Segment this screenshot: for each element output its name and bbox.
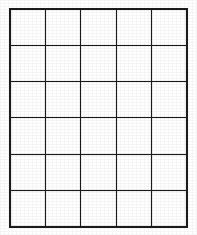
grid-cell-content xyxy=(46,46,80,81)
grid-cell[interactable] xyxy=(151,118,186,154)
grid-cell-content xyxy=(11,155,45,190)
grid-row xyxy=(11,118,187,154)
grid-body xyxy=(11,10,187,227)
grid-cell-content xyxy=(117,191,151,226)
grid-cell-content xyxy=(81,155,115,190)
grid-cell-content xyxy=(152,82,186,117)
grid-cell[interactable] xyxy=(11,46,46,82)
grid-cell-content xyxy=(11,10,45,45)
grid-cell[interactable] xyxy=(151,82,186,118)
grid-cell[interactable] xyxy=(151,190,186,226)
grid-cell[interactable] xyxy=(11,10,46,46)
grid-cell[interactable] xyxy=(11,190,46,226)
grid-row xyxy=(11,10,187,46)
grid-cell[interactable] xyxy=(46,46,81,82)
grid-cell-content xyxy=(11,82,45,117)
grid-row xyxy=(11,46,187,82)
grid-cell-content xyxy=(152,118,186,153)
grid-row xyxy=(11,154,187,190)
grid-cell-content xyxy=(117,82,151,117)
grid-cell[interactable] xyxy=(81,82,116,118)
grid-cell-content xyxy=(81,10,115,45)
grid-cell[interactable] xyxy=(46,10,81,46)
grid-cell-content xyxy=(46,155,80,190)
grid-cell-content xyxy=(117,10,151,45)
grid-cell-content xyxy=(117,118,151,153)
grid-cell[interactable] xyxy=(116,190,151,226)
grid-cell-content xyxy=(117,46,151,81)
grid-cell[interactable] xyxy=(11,154,46,190)
page-canvas xyxy=(0,0,197,235)
grid-cell[interactable] xyxy=(116,10,151,46)
grid-row xyxy=(11,82,187,118)
grid-cell[interactable] xyxy=(46,190,81,226)
grid-cell[interactable] xyxy=(46,118,81,154)
grid-cell-content xyxy=(81,118,115,153)
grid-cell[interactable] xyxy=(116,118,151,154)
grid-cell[interactable] xyxy=(81,46,116,82)
grid-cell-content xyxy=(81,191,115,226)
grid-cell-content xyxy=(46,191,80,226)
grid-cell-content xyxy=(46,118,80,153)
grid-cell[interactable] xyxy=(46,154,81,190)
grid-cell[interactable] xyxy=(151,46,186,82)
grid-cell[interactable] xyxy=(46,82,81,118)
grid-cell[interactable] xyxy=(81,118,116,154)
grid-cell[interactable] xyxy=(151,10,186,46)
grid-cell[interactable] xyxy=(116,154,151,190)
grid-cell[interactable] xyxy=(116,82,151,118)
grid-cell-content xyxy=(152,10,186,45)
grid-cell[interactable] xyxy=(151,154,186,190)
grid-cell-content xyxy=(11,191,45,226)
grid-container xyxy=(10,9,187,227)
grid-cell-content xyxy=(81,82,115,117)
grid-cell-content xyxy=(152,46,186,81)
grid-cell-content xyxy=(46,10,80,45)
grid-cell-content xyxy=(11,118,45,153)
grid-row xyxy=(11,190,187,226)
grid-cell[interactable] xyxy=(116,46,151,82)
grid-cell-content xyxy=(81,46,115,81)
grid-cell-content xyxy=(117,155,151,190)
grid-cell[interactable] xyxy=(81,154,116,190)
grid-cell[interactable] xyxy=(11,82,46,118)
grid-cell-content xyxy=(152,155,186,190)
grid-cell-content xyxy=(46,82,80,117)
grid-cell[interactable] xyxy=(11,118,46,154)
grid-cell[interactable] xyxy=(81,10,116,46)
grid-cell[interactable] xyxy=(81,190,116,226)
grid-cell-content xyxy=(11,46,45,81)
grid-cell-content xyxy=(152,191,186,226)
grid-table xyxy=(10,9,187,227)
